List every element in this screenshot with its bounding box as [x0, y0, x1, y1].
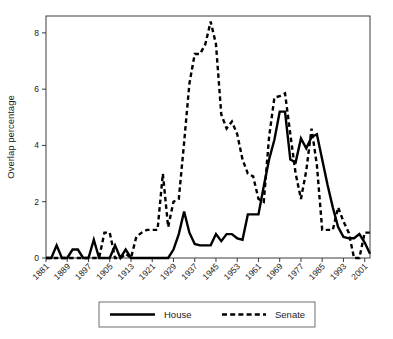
x-tick-label: 1961 — [243, 261, 264, 282]
y-axis-ticks: 02468 — [34, 28, 46, 263]
x-tick-label: 1921 — [137, 261, 158, 282]
legend-label-senate: Senate — [275, 309, 305, 320]
x-tick-label: 1993 — [328, 261, 349, 282]
x-tick-label: 1905 — [94, 261, 115, 282]
chart-figure: 02468 1881188918971905191319211929193719… — [0, 0, 393, 339]
x-tick-label: 1889 — [52, 261, 73, 282]
x-tick-label: 2001 — [349, 261, 370, 282]
legend-label-house: House — [164, 309, 191, 320]
y-tick-label: 6 — [34, 84, 39, 94]
y-tick-label: 4 — [34, 140, 39, 150]
series-line-senate — [46, 22, 370, 258]
y-tick-label: 0 — [34, 253, 39, 263]
x-tick-label: 1977 — [285, 261, 306, 282]
x-tick-label: 1945 — [200, 261, 221, 282]
chart-legend: House Senate — [99, 302, 315, 327]
y-tick-label: 8 — [34, 28, 39, 38]
y-tick-label: 2 — [34, 197, 39, 207]
series-line-house — [46, 112, 370, 258]
x-tick-label: 1969 — [264, 261, 285, 282]
x-tick-label: 1929 — [158, 261, 179, 282]
data-series-group — [46, 22, 370, 258]
x-tick-label: 1897 — [73, 261, 94, 282]
x-tick-label: 1937 — [179, 261, 200, 282]
y-axis-title: Overlap percentage — [5, 95, 16, 178]
x-tick-label: 1913 — [115, 261, 136, 282]
overlap-percentage-line-chart: 02468 1881188918971905191319211929193719… — [0, 0, 393, 339]
x-axis-ticks: 1881188918971905191319211929193719451953… — [30, 258, 369, 282]
x-tick-label: 1881 — [30, 261, 51, 282]
x-tick-label: 1985 — [307, 261, 328, 282]
x-tick-label: 1953 — [222, 261, 243, 282]
